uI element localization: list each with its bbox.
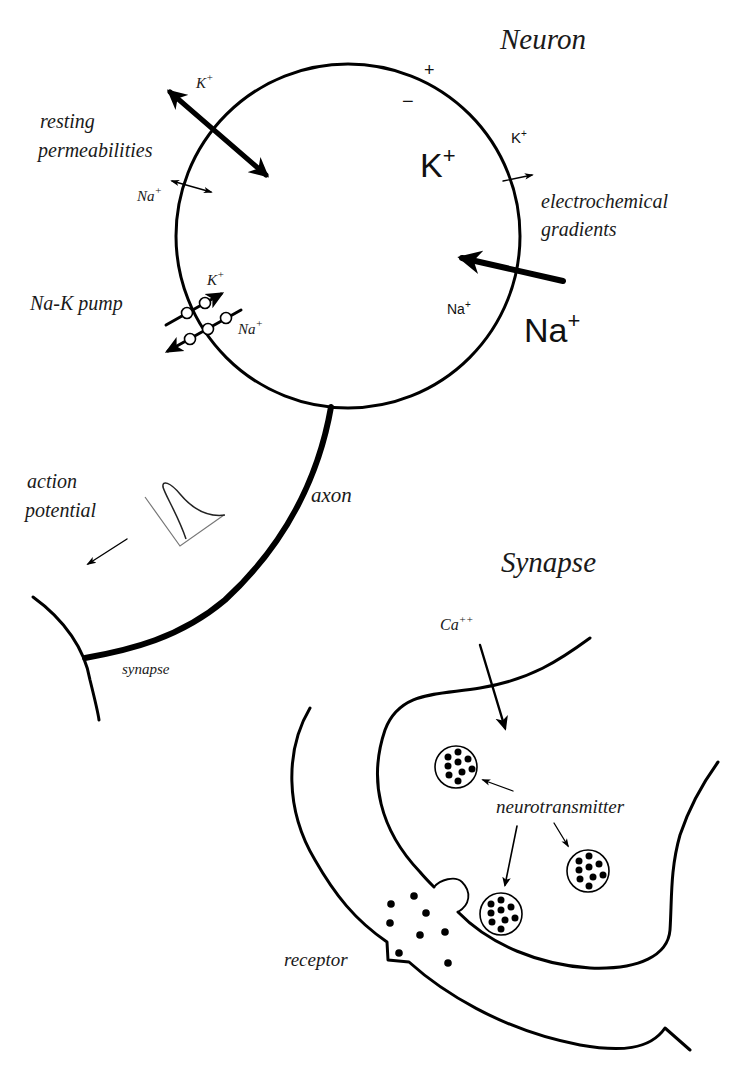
vesicle-bottom [480, 893, 522, 935]
resting-permeabilities-group: resting permeabilities K+ Na+ [36, 71, 266, 204]
action-potential-axes [145, 497, 224, 546]
neurotransmitter-arrow-top [483, 780, 513, 791]
na-k-pump-group: Na-K pump K+ Na+ [29, 268, 263, 351]
neuron-synapse-diagram: Neuron + − resting permeabilities K+ Na+… [0, 0, 745, 1067]
k-inside-large-label: K+ [420, 143, 456, 184]
pump-k-ion-2 [200, 298, 211, 309]
neuron-title: Neuron [499, 23, 586, 55]
vesicle-right [567, 850, 609, 892]
neurotransmitter-label: neurotransmitter [496, 796, 625, 817]
neurotransmitter-arrow-right [554, 823, 568, 846]
released-neurotransmitter [386, 892, 452, 967]
postsynaptic-membrane [292, 708, 690, 1050]
charge-outside-plus: + [424, 60, 435, 80]
neurotransmitter-arrow-bottom [505, 826, 517, 885]
synapse-small-label: synapse [122, 661, 170, 677]
presynaptic-membrane-upper [378, 638, 590, 887]
k-permeability-arrow [170, 92, 266, 175]
electrochemical-gradients-group: K+ K+ electrochemical gradients Na+ Na+ [420, 128, 668, 349]
axon-label: axon [311, 483, 352, 507]
action-potential-group: action potential [23, 470, 225, 564]
pump-na-ion-3 [185, 334, 196, 345]
na-influx-arrow [462, 258, 563, 281]
propagation-arrow [88, 539, 127, 564]
resting-permeabilities-label-1: resting [40, 110, 95, 133]
pump-k-ion-1 [182, 308, 193, 319]
na-permeability-label: Na+ [136, 184, 162, 204]
electrochemical-gradients-label-2: gradients [541, 218, 617, 241]
synapse-title: Synapse [501, 546, 596, 578]
calcium-label: Ca++ [440, 613, 474, 633]
axon [85, 407, 331, 658]
cell-body-membrane [176, 64, 520, 408]
action-potential-trace [163, 483, 225, 539]
action-potential-label-1: action [27, 470, 77, 492]
pump-k-label: K+ [206, 268, 224, 288]
exocytosis-vesicle-fusion [434, 879, 468, 912]
pump-na-ion-2 [221, 313, 232, 324]
na-k-pump-label: Na-K pump [29, 292, 123, 315]
pump-na-label: Na+ [237, 317, 263, 337]
na-permeability-arrow [172, 181, 211, 192]
na-inside-small-label: Na+ [447, 299, 471, 317]
na-outside-large-label: Na+ [524, 308, 580, 349]
vesicle-top [435, 746, 477, 788]
pump-k-transport-line [166, 294, 221, 325]
pump-na-ion-1 [203, 324, 214, 335]
receptor-label: receptor [284, 949, 348, 970]
k-permeability-label: K+ [195, 71, 213, 91]
electrochemical-gradients-label-1: electrochemical [541, 190, 668, 212]
action-potential-label-2: potential [23, 499, 97, 522]
k-efflux-arrow [503, 175, 532, 181]
resting-permeabilities-label-2: permeabilities [36, 139, 153, 162]
k-outside-small-label: K+ [511, 128, 527, 146]
charge-inside-minus: − [402, 90, 414, 112]
